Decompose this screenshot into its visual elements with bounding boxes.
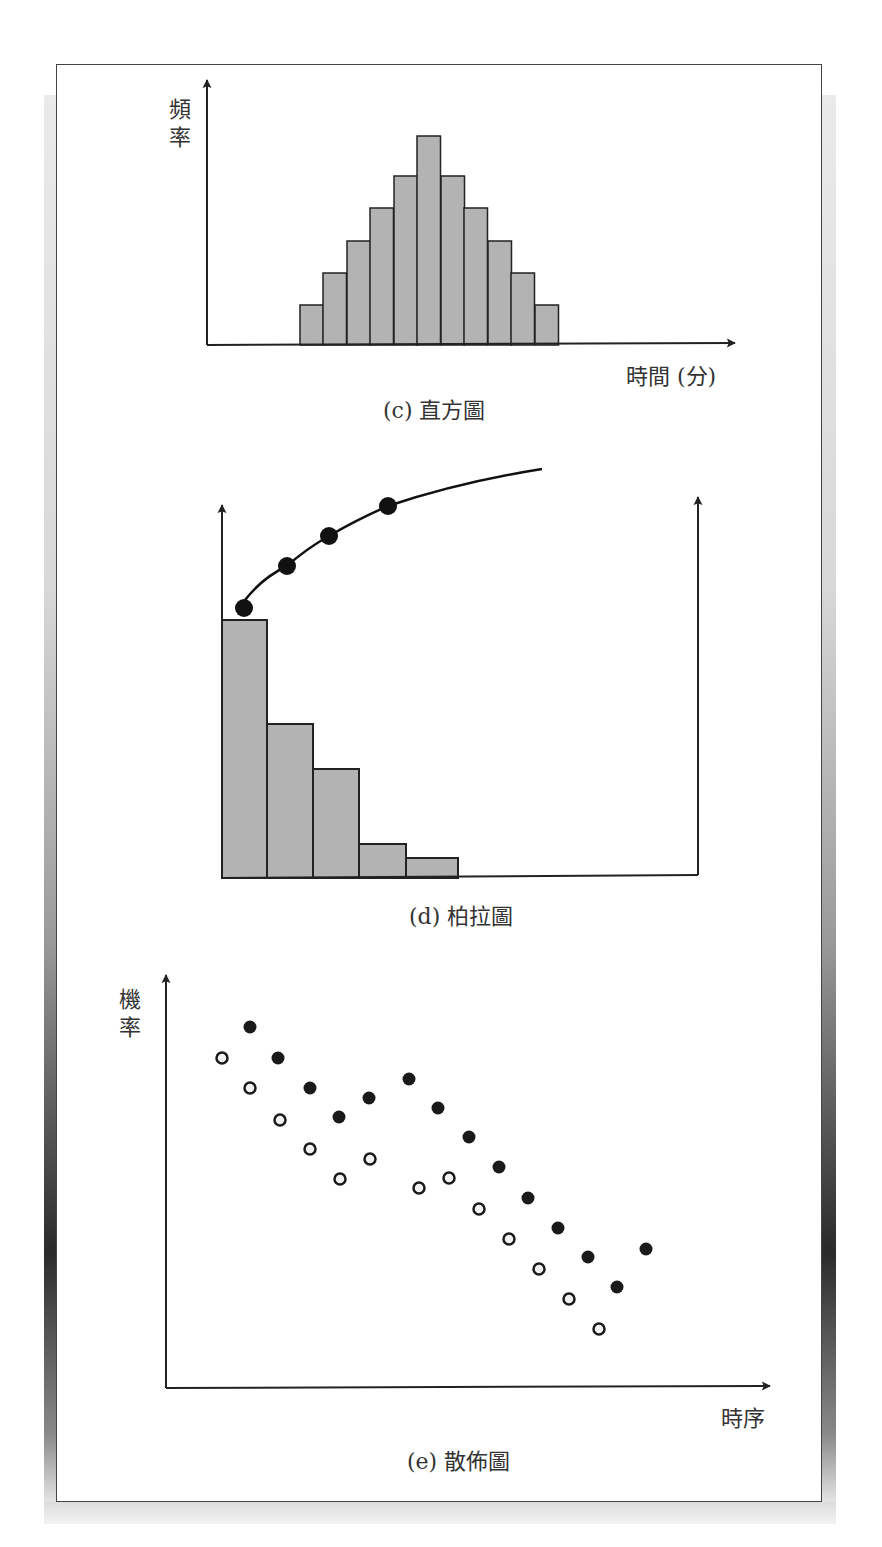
scatter-point-filled xyxy=(333,1111,346,1124)
scatter-point-filled xyxy=(640,1243,653,1256)
scatter-x-label: 時序 xyxy=(721,1408,765,1430)
histogram-bar xyxy=(511,273,535,345)
scatter-caption: (e) 散佈圖 xyxy=(407,1451,510,1473)
scatter-point-filled xyxy=(522,1192,535,1205)
pareto-caption: (d) 柏拉圖 xyxy=(409,906,513,928)
histogram-bar xyxy=(464,208,488,345)
histogram-bar xyxy=(347,241,371,345)
histogram-bar xyxy=(441,176,465,345)
pareto-markers xyxy=(235,497,397,617)
histogram-x-axis xyxy=(207,343,735,345)
scatter-point-open xyxy=(474,1204,485,1215)
scatter-point-open xyxy=(365,1154,376,1165)
scatter-point-open xyxy=(245,1083,256,1094)
histogram-bar xyxy=(323,273,347,345)
scatter-point-filled xyxy=(463,1131,476,1144)
pareto-marker xyxy=(278,557,296,575)
histogram-bars xyxy=(300,136,559,345)
scatter-points xyxy=(217,1021,653,1335)
histogram-bar xyxy=(488,241,512,345)
histogram-bar xyxy=(394,176,418,345)
scatter-point-open xyxy=(305,1144,316,1155)
pareto-chart xyxy=(222,469,698,878)
scatter-point-filled xyxy=(432,1102,445,1115)
pareto-bar xyxy=(313,769,359,878)
histogram-bar xyxy=(417,136,441,345)
scatter-point-open xyxy=(335,1174,346,1185)
histogram-bar xyxy=(370,208,394,345)
histogram-x-label: 時間 (分) xyxy=(626,366,716,388)
histogram-caption: (c) 直方圖 xyxy=(383,400,485,422)
scatter-point-filled xyxy=(304,1082,317,1095)
pareto-bar xyxy=(359,844,406,878)
pareto-bars xyxy=(222,620,458,878)
scatter-x-axis xyxy=(166,1386,770,1388)
histogram-bar xyxy=(300,305,324,345)
scatter-point-open xyxy=(564,1294,575,1305)
scatter-point-filled xyxy=(493,1161,506,1174)
charts-canvas xyxy=(0,0,882,1547)
scatter-point-filled xyxy=(582,1251,595,1264)
scatter-point-filled xyxy=(611,1281,624,1294)
pareto-bar xyxy=(406,858,458,878)
scatter-point-open xyxy=(534,1264,545,1275)
histogram-y-label: 頻率 xyxy=(168,96,192,152)
scatter-point-open xyxy=(504,1234,515,1245)
scatter-point-open xyxy=(414,1183,425,1194)
scatter-point-open xyxy=(275,1115,286,1126)
scatter-point-filled xyxy=(272,1052,285,1065)
pareto-marker xyxy=(235,599,253,617)
scatter-y-label: 機率 xyxy=(118,986,142,1042)
scatter-point-open xyxy=(594,1324,605,1335)
scatter-point-open xyxy=(444,1173,455,1184)
pareto-cumulative-curve xyxy=(245,469,542,600)
scatter-point-filled xyxy=(552,1222,565,1235)
scatter-chart xyxy=(166,975,770,1388)
scatter-point-open xyxy=(217,1053,228,1064)
scatter-point-filled xyxy=(244,1021,257,1034)
pareto-bar xyxy=(267,724,313,878)
pareto-marker xyxy=(379,497,397,515)
histogram-chart xyxy=(207,80,735,345)
pareto-marker xyxy=(320,527,338,545)
scatter-point-filled xyxy=(363,1092,376,1105)
histogram-bar xyxy=(535,305,559,345)
pareto-bar xyxy=(222,620,267,878)
scatter-point-filled xyxy=(403,1073,416,1086)
